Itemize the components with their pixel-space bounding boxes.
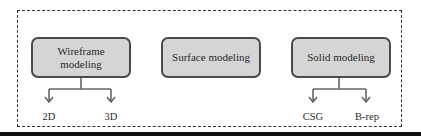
node-label: Solid modeling: [307, 51, 375, 64]
node-wireframe-modeling: Wireframe modeling: [31, 37, 131, 78]
node-label: Surface modeling: [172, 51, 250, 64]
bottom-rule: [0, 132, 421, 136]
node-label-line1: Wireframe: [57, 45, 104, 58]
leaf-2d: 2D: [43, 111, 56, 123]
leaf-csg: CSG: [303, 111, 323, 123]
leaf-3d: 3D: [105, 111, 118, 123]
node-solid-modeling: Solid modeling: [291, 37, 391, 78]
leaf-b-rep: B-rep: [355, 111, 379, 123]
node-label-line2: modeling: [57, 58, 104, 71]
node-surface-modeling: Surface modeling: [161, 37, 261, 78]
